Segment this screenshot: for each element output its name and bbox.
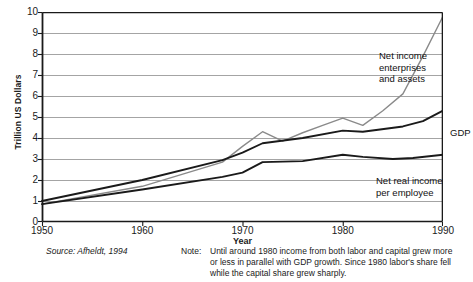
- y-tick-label: 10: [4, 7, 38, 17]
- y-tick-label: 2: [4, 175, 38, 185]
- series-label-net-real-income-per-employee: Net real income per employee: [376, 175, 443, 198]
- y-tick-label: 9: [4, 28, 38, 38]
- series-label-net-income-enterprises-and-assets: Net income enterprises and assets: [379, 50, 427, 85]
- y-tick-label: 7: [4, 70, 38, 80]
- x-axis-title: Year: [42, 236, 443, 246]
- series-label-gdp: GDP: [450, 127, 471, 139]
- y-tick-label: 6: [4, 91, 38, 101]
- chart-footer: Source: Afheldt, 1994 Note: Until around…: [0, 246, 457, 282]
- note-text: Until around 1980 income from both labor…: [210, 246, 453, 279]
- note-label: Note:: [181, 246, 201, 256]
- y-tick-label: 4: [4, 133, 38, 143]
- y-axis-tick-labels: 012345678910: [0, 12, 38, 222]
- y-tick-label: 8: [4, 49, 38, 59]
- plot-area: Net income enterprises and assets GDP Ne…: [42, 12, 443, 222]
- source-credit: Source: Afheldt, 1994: [46, 246, 127, 256]
- y-tick-label: 5: [4, 112, 38, 122]
- y-tick-label: 3: [4, 154, 38, 164]
- y-tick-label: 1: [4, 196, 38, 206]
